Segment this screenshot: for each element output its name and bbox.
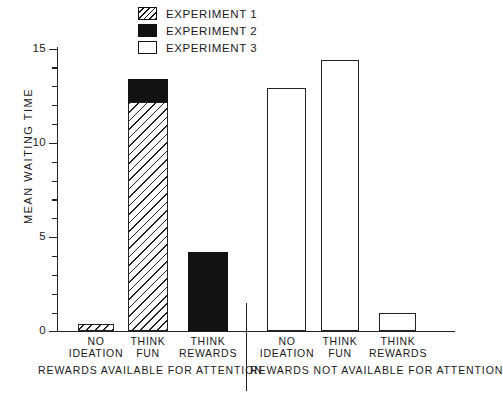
y-tick-minor-14 xyxy=(52,67,58,68)
y-tick-major-10 xyxy=(49,143,58,144)
legend-label-experiment-1: EXPERIMENT 1 xyxy=(166,8,257,20)
y-axis-title: MEAN WAITING TIME xyxy=(22,76,34,236)
legend-swatch-open-icon xyxy=(138,41,157,54)
legend-swatch-hatched-icon xyxy=(138,7,157,20)
y-tick-major-15 xyxy=(49,49,58,50)
y-tick-major-5 xyxy=(49,237,58,238)
y-tick-major-0 xyxy=(49,331,58,332)
bar-g2-think-rewards-exp3 xyxy=(379,313,416,331)
y-tick-label-10: 10 xyxy=(22,136,46,148)
y-tick-minor-7 xyxy=(52,199,58,200)
y-tick-minor-2 xyxy=(52,294,58,295)
y-tick-minor-1 xyxy=(52,313,58,314)
bar-g1-no-ideation-exp1 xyxy=(78,324,114,332)
legend-swatch-solid-icon xyxy=(138,24,157,37)
x-axis-line xyxy=(57,331,455,332)
group-caption-rewards-available: REWARDS AVAILABLE FOR ATTENTION xyxy=(38,364,263,376)
y-tick-minor-4 xyxy=(52,256,58,257)
y-tick-minor-3 xyxy=(52,275,58,276)
y-tick-label-5: 5 xyxy=(22,230,46,242)
bar-g2-think-fun-exp3 xyxy=(321,60,359,331)
bar-g1-think-fun-exp2 xyxy=(128,79,168,102)
y-tick-minor-9 xyxy=(52,162,58,163)
category-label-g2-think-rewards: THINK REWARDS xyxy=(362,336,434,359)
y-tick-label-0: 0 xyxy=(22,324,46,336)
y-tick-minor-12 xyxy=(52,105,58,106)
legend-label-experiment-3: EXPERIMENT 3 xyxy=(166,42,257,54)
legend-label-experiment-2: EXPERIMENT 2 xyxy=(166,25,257,37)
legend-item-experiment-2: EXPERIMENT 2 xyxy=(138,23,257,38)
y-tick-minor-11 xyxy=(52,124,58,125)
y-tick-minor-8 xyxy=(52,181,58,182)
group-caption-rewards-not-available: REWARDS NOT AVAILABLE FOR ATTENTION xyxy=(250,364,503,376)
bar-g1-think-fun-exp1 xyxy=(128,102,168,331)
y-tick-minor-13 xyxy=(52,86,58,87)
category-label-g2-think-fun: THINK FUN xyxy=(310,336,370,359)
group-divider-line xyxy=(246,303,247,391)
legend-item-experiment-3: EXPERIMENT 3 xyxy=(138,40,257,55)
legend-item-experiment-1: EXPERIMENT 1 xyxy=(138,6,257,21)
chart-legend: EXPERIMENT 1 EXPERIMENT 2 EXPERIMENT 3 xyxy=(138,6,257,57)
category-label-g1-think-fun: THINK FUN xyxy=(118,336,178,359)
category-label-g1-think-rewards: THINK REWARDS xyxy=(172,336,244,359)
y-tick-label-15: 15 xyxy=(22,42,46,54)
y-axis-line xyxy=(57,47,58,332)
bar-g2-no-ideation-exp3 xyxy=(267,88,306,331)
y-tick-minor-6 xyxy=(52,218,58,219)
bar-g1-think-rewards-exp2 xyxy=(188,252,228,331)
